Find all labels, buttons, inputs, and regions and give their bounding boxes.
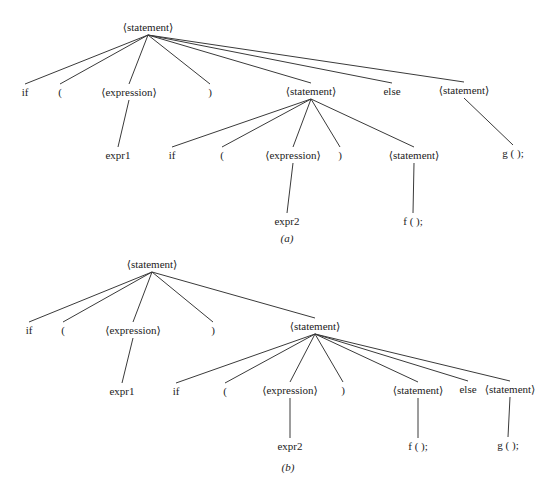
- figure-caption: (b): [282, 461, 295, 473]
- tree-edge: [25, 35, 148, 84]
- tree-node: (: [223, 385, 227, 397]
- tree-node: ⟨expression⟩: [101, 86, 157, 99]
- tree-node: ⟨statement⟩: [127, 258, 178, 271]
- tree-node: g ( );: [502, 147, 523, 159]
- tree-edge: [464, 98, 513, 145]
- tree-edge: [287, 163, 293, 213]
- tree-node: else: [459, 383, 476, 395]
- tree-edge: [63, 272, 152, 322]
- tree-edges: [0, 0, 560, 490]
- tree-edge: [293, 99, 311, 147]
- tree-edge: [311, 99, 414, 147]
- tree-node: ⟨statement⟩: [389, 149, 440, 162]
- tree-edge: [148, 35, 464, 82]
- tree-node: ): [208, 86, 212, 98]
- tree-node: ⟨statement⟩: [439, 84, 490, 97]
- tree-edge: [225, 334, 315, 383]
- tree-node: expr2: [277, 440, 302, 452]
- tree-node: ): [341, 384, 345, 396]
- tree-edge: [148, 35, 311, 83]
- tree-edge: [133, 272, 152, 322]
- tree-edge: [315, 334, 418, 382]
- tree-node: ): [211, 324, 215, 336]
- tree-edge: [508, 397, 510, 437]
- tree-node: if: [169, 149, 176, 161]
- tree-node: expr2: [274, 215, 299, 227]
- tree-node: if: [173, 385, 180, 397]
- figure-caption: (a): [281, 232, 294, 244]
- tree-node: ⟨statement⟩: [290, 320, 341, 333]
- tree-node: ⟨statement⟩: [485, 383, 536, 396]
- tree-node: ⟨expression⟩: [262, 384, 318, 397]
- tree-node: (: [220, 149, 224, 161]
- tree-edge: [118, 100, 129, 147]
- tree-node: f ( );: [403, 215, 423, 227]
- tree-edge: [413, 163, 414, 213]
- tree-node: if: [26, 324, 33, 336]
- tree-edge: [122, 338, 133, 383]
- tree-node: if: [22, 86, 29, 98]
- tree-edge: [60, 35, 148, 84]
- tree-edge: [172, 99, 311, 147]
- tree-node: else: [383, 85, 400, 97]
- tree-node: ⟨statement⟩: [286, 85, 337, 98]
- tree-node: ⟨statement⟩: [393, 384, 444, 397]
- tree-node: (: [61, 324, 65, 336]
- tree-edge: [152, 272, 213, 322]
- tree-node: expr1: [109, 385, 134, 397]
- tree-node: ⟨expression⟩: [265, 149, 321, 162]
- tree-node: ⟨statement⟩: [123, 21, 174, 34]
- tree-node: ): [338, 149, 342, 161]
- tree-edge: [222, 99, 311, 147]
- tree-node: f ( );: [408, 440, 428, 452]
- tree-node: g ( );: [497, 439, 518, 451]
- tree-edge: [148, 35, 392, 83]
- tree-node: expr1: [105, 149, 130, 161]
- tree-node: (: [58, 86, 62, 98]
- tree-edge: [129, 35, 148, 84]
- tree-edge: [176, 334, 315, 383]
- tree-node: ⟨expression⟩: [105, 324, 161, 337]
- tree-edge: [315, 334, 510, 381]
- tree-edge: [29, 272, 152, 322]
- parse-tree-diagram: ⟨statement⟩if(⟨expression⟩)⟨statement⟩el…: [0, 0, 560, 490]
- tree-edge: [152, 272, 315, 318]
